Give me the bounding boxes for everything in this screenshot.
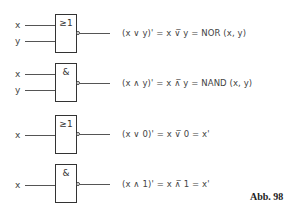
gate-2-input-x-wire xyxy=(25,74,55,75)
gate-1-formula: (x ∨ y)' = x ∨̅ y = NOR (x, y) xyxy=(122,28,246,38)
gate-4-input-x-wire xyxy=(25,185,55,186)
gate-2-box: & xyxy=(55,63,77,102)
gate-3-formula: (x ∨ 0)' = x ∨̅ 0 = x' xyxy=(122,129,210,139)
figure-label: Abb. 98 xyxy=(250,191,283,202)
gate-1-input-x-label: x xyxy=(15,20,20,30)
gate-2-input-y-label: y xyxy=(15,85,20,95)
gate-4-output-wire xyxy=(80,184,110,185)
gate-4-input-x-label: x xyxy=(15,180,20,190)
gate-3-input-x-wire xyxy=(25,135,55,136)
gate-1-input-x-wire xyxy=(25,25,55,26)
gate-3-input-x-label: x xyxy=(15,130,20,140)
gate-2-formula: (x ∧ y)' = x ∧̅ y = NAND (x, y) xyxy=(122,78,252,88)
gate-2-input-y-wire xyxy=(25,90,55,91)
gate-2-input-x-label: x xyxy=(15,69,20,79)
gate-3-symbol: ≥1 xyxy=(56,119,76,129)
gate-1-input-y-label: y xyxy=(15,36,20,46)
gate-4-box: & xyxy=(55,164,77,203)
gate-4-formula: (x ∧ 1)' = x ∧̅ 1 = x' xyxy=(122,179,210,189)
gate-2-output-wire xyxy=(80,83,110,84)
gate-1-symbol: ≥1 xyxy=(56,18,76,28)
gate-1-output-wire xyxy=(80,33,110,34)
gate-4-symbol: & xyxy=(56,168,76,178)
gate-3-output-wire xyxy=(80,134,110,135)
gate-2-symbol: & xyxy=(56,67,76,77)
gate-3-box: ≥1 xyxy=(55,115,77,154)
gate-1-box: ≥1 xyxy=(55,14,77,53)
gate-1-input-y-wire xyxy=(25,41,55,42)
